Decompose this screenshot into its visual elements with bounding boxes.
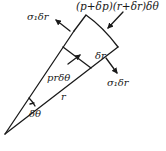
free-body-diagram: (p+δp)(r+δr)δθ σ₁δr σ₁δr prδθ δr r δθ (0, 0, 166, 151)
angle-arc (29, 98, 35, 106)
radial-thickness-label: δr (95, 50, 107, 61)
hoop-force-top-arrow (56, 20, 70, 31)
outer-force-arrow (108, 12, 123, 28)
hoop-force-bottom-arrow (106, 58, 117, 73)
inner-force-arrow (68, 55, 80, 64)
element (63, 15, 118, 68)
outer-face (74, 15, 118, 47)
hoop-force-bottom-label: σ₁δr (107, 77, 130, 88)
radius-label: r (61, 91, 67, 102)
hoop-force-top-label: σ₁δr (27, 11, 50, 22)
inner-force-label: prδθ (47, 72, 70, 83)
angle-label: δθ (29, 108, 41, 119)
outer-force-label: (p+δp)(r+δr)δθ (76, 0, 159, 12)
